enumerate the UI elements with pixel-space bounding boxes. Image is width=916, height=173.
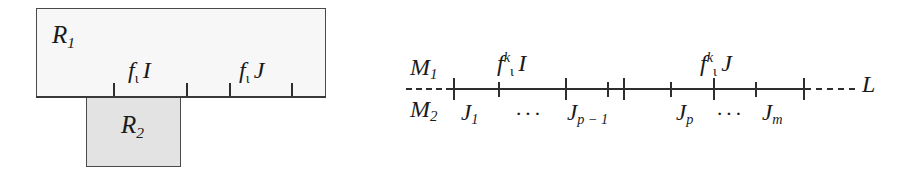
label-m1: M1 xyxy=(410,55,437,82)
label-j1-subscript: 1 xyxy=(471,111,478,127)
tick-mark-left-2 xyxy=(186,83,188,96)
label-r1: R1 xyxy=(52,22,75,50)
label-jm: Jm xyxy=(762,101,783,127)
label-jp-subscript: p xyxy=(686,111,693,127)
figure-canvas: R1 R2 fιI fιJ M1 M2 L fkιI fkιJ xyxy=(0,0,916,173)
label-j-p-minus-1-base: J xyxy=(567,100,577,125)
tick-mark-minor-1 xyxy=(498,82,500,97)
tick-mark-minor-2 xyxy=(607,82,609,97)
label-j-p-minus-1-subscript: p − 1 xyxy=(577,111,608,127)
tick-mark-left-1 xyxy=(113,83,115,96)
tick-mark-minor-4 xyxy=(755,82,757,97)
label-l: L xyxy=(862,72,875,96)
tick-mark-major-5 xyxy=(803,78,805,100)
label-f-iota-k-i: fkιI xyxy=(497,50,526,78)
label-f-iota-i-base: f xyxy=(128,57,135,83)
tick-mark-major-1 xyxy=(453,78,455,100)
label-f-iota-j-base: f xyxy=(239,57,246,83)
label-f-iota-k-j-operand: J xyxy=(721,50,732,76)
label-f-iota-j-subscript: ι xyxy=(246,70,250,86)
label-f-iota-k-j: fkιJ xyxy=(700,50,732,78)
label-f-iota-i: fιI xyxy=(128,58,151,85)
label-f-iota-j: fιJ xyxy=(239,58,265,85)
label-m1-base: M xyxy=(410,54,430,80)
label-f-iota-i-subscript: ι xyxy=(135,70,139,86)
label-m2: M2 xyxy=(410,97,437,124)
label-m1-subscript: 1 xyxy=(430,66,437,82)
label-r2-subscript: 2 xyxy=(136,124,144,141)
label-r1-base: R xyxy=(52,21,67,48)
ellipsis-right: ··· xyxy=(716,103,744,125)
label-f-iota-k-i-operand: I xyxy=(518,50,526,76)
label-f-iota-k-i-base: f xyxy=(497,50,504,76)
label-jm-base: J xyxy=(762,100,772,125)
label-f-iota-j-operand: J xyxy=(254,57,265,83)
label-jp-base: J xyxy=(676,100,686,125)
ellipsis-left: ··· xyxy=(515,103,543,125)
label-j1-base: J xyxy=(461,100,471,125)
dashed-lead-out-line xyxy=(805,88,855,90)
tick-mark-major-2 xyxy=(565,78,567,100)
label-jp: Jp xyxy=(676,101,693,127)
label-j1: J1 xyxy=(461,101,478,127)
label-m2-base: M xyxy=(410,96,430,122)
label-f-iota-k-j-base: f xyxy=(700,50,707,76)
tick-mark-major-3 xyxy=(623,78,625,100)
r1-baseline xyxy=(36,96,326,98)
dashed-lead-in-line xyxy=(406,88,452,90)
tick-mark-left-4 xyxy=(291,83,293,96)
number-line-axis xyxy=(451,88,803,90)
label-f-iota-k-i-subscript: ι xyxy=(510,63,514,79)
label-j-p-minus-1: Jp − 1 xyxy=(567,101,608,127)
tick-mark-minor-3 xyxy=(670,82,672,97)
tick-mark-left-3 xyxy=(229,83,231,96)
label-r2: R2 xyxy=(121,112,144,140)
label-jm-subscript: m xyxy=(772,111,782,127)
label-m2-subscript: 2 xyxy=(430,108,437,124)
label-r2-base: R xyxy=(121,111,136,138)
rectangle-r1 xyxy=(36,8,326,98)
label-r1-subscript: 1 xyxy=(67,34,75,51)
tick-mark-major-4 xyxy=(713,78,715,100)
label-f-iota-i-operand: I xyxy=(143,57,151,83)
label-f-iota-k-j-subscript: ι xyxy=(713,63,717,79)
